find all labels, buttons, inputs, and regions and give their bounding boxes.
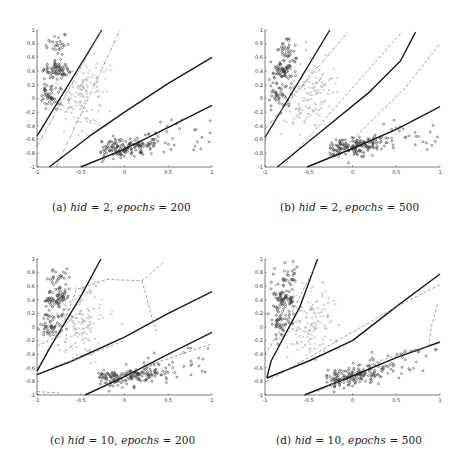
- y-tick-label: 0.6: [255, 283, 263, 289]
- x-tick-label: 1: [438, 397, 441, 403]
- caption-var-epochs: epochs: [348, 434, 386, 446]
- scatter-plot-d: -1-0.8-0.6-0.4-0.200.20.40.60.81-1-0.500…: [0, 0, 465, 469]
- y-tick-label: 0.8: [255, 269, 263, 275]
- x-tick-label: 0.5: [392, 397, 400, 403]
- caption-var-hid: hid: [295, 434, 312, 446]
- y-tick-label: -0.2: [253, 337, 263, 343]
- caption-val-epochs: 500: [402, 434, 422, 446]
- y-tick-label: 0: [260, 324, 263, 330]
- data-points: [267, 260, 437, 392]
- caption-val-hid: 10: [328, 434, 342, 446]
- y-tick-label: -0.6: [253, 365, 263, 371]
- x-tick-label: 0: [351, 397, 354, 403]
- y-tick-label: -0.8: [253, 378, 263, 384]
- caption-label: (d): [276, 434, 291, 446]
- x-tick-label: -1: [263, 397, 268, 403]
- y-tick-label: 0.2: [255, 310, 263, 316]
- caption-d: (d) hid = 10, epochs = 500: [276, 434, 422, 446]
- y-tick-label: 1: [260, 256, 263, 262]
- x-tick-label: -0.5: [304, 397, 314, 403]
- y-tick-label: 0.4: [255, 297, 263, 303]
- y-tick-label: -0.4: [253, 351, 263, 357]
